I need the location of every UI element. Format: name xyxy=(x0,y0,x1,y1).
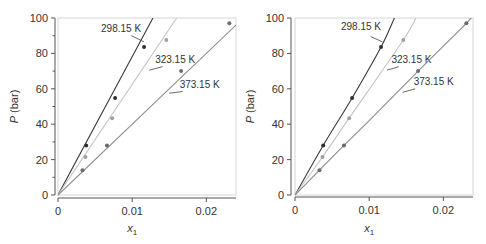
data-point-32315K xyxy=(164,38,168,42)
y-tick-label: 80 xyxy=(272,47,284,59)
data-point-32315K xyxy=(401,38,405,42)
series-label-37315K: 373.15 K xyxy=(180,79,220,90)
x-tick-label: 0 xyxy=(292,204,298,216)
y-tick-label: 0 xyxy=(278,189,284,201)
x-tick-label: 0 xyxy=(55,205,61,217)
data-point-37315K xyxy=(227,21,231,25)
data-point-37315K xyxy=(342,143,346,147)
data-point-37315K xyxy=(179,69,183,73)
series-line-29815K xyxy=(295,18,394,195)
label-leader-32315K xyxy=(149,67,162,71)
data-point-32315K xyxy=(83,155,87,159)
x-tick-label: 0.01 xyxy=(121,205,142,217)
series-line-32315K xyxy=(295,18,416,195)
data-point-29815K xyxy=(84,143,88,147)
y-tick-label: 40 xyxy=(36,118,48,130)
series-label-29815K: 298.15 K xyxy=(101,23,141,34)
y-tick-label: 40 xyxy=(272,118,284,130)
data-point-29815K xyxy=(321,143,325,147)
label-leader-29815K xyxy=(371,37,383,42)
chart-canvas: 02040608010000.010.02x1P (bar)298.15 K32… xyxy=(0,0,486,244)
x-tick-label: 0.01 xyxy=(358,204,379,216)
label-leader-37315K xyxy=(403,89,416,93)
chart-panel-right: 02040608010000.010.02x1P (bar)298.15 K32… xyxy=(244,12,473,237)
data-point-29815K xyxy=(113,96,117,100)
data-point-32315K xyxy=(110,116,114,120)
series-line-37315K xyxy=(58,25,236,195)
x-axis-label: x1 xyxy=(126,222,138,237)
series-label-37315K: 373.15 K xyxy=(414,76,454,87)
data-point-32315K xyxy=(320,155,324,159)
series-line-37315K xyxy=(295,18,471,195)
y-tick-label: 0 xyxy=(42,189,48,201)
data-point-37315K xyxy=(80,168,84,172)
y-tick-label: 60 xyxy=(36,83,48,95)
y-tick-label: 60 xyxy=(272,83,284,95)
label-leader-32315K xyxy=(387,67,399,71)
x-axis-label: x1 xyxy=(363,222,375,237)
data-point-29815K xyxy=(142,45,146,49)
data-point-37315K xyxy=(317,168,321,172)
y-axis-label: P (bar) xyxy=(244,90,256,124)
data-point-37315K xyxy=(105,143,109,147)
plot-frame xyxy=(58,18,236,195)
x-tick-label: 0.02 xyxy=(196,205,217,217)
y-tick-label: 80 xyxy=(36,47,48,59)
y-tick-label: 20 xyxy=(36,154,48,166)
data-point-37315K xyxy=(464,21,468,25)
data-point-32315K xyxy=(347,116,351,120)
data-point-37315K xyxy=(416,69,420,73)
chart-panel-left: 02040608010000.010.02x1P (bar)298.15 K32… xyxy=(8,12,236,237)
y-tick-label: 20 xyxy=(272,154,284,166)
data-point-29815K xyxy=(379,45,383,49)
series-line-32315K xyxy=(58,18,177,195)
y-tick-label: 100 xyxy=(30,12,48,24)
data-point-29815K xyxy=(350,96,354,100)
series-label-29815K: 298.15 K xyxy=(341,21,381,32)
series-line-29815K xyxy=(58,18,153,195)
y-tick-label: 100 xyxy=(266,12,284,24)
y-axis-label: P (bar) xyxy=(8,90,20,124)
series-label-32315K: 323.15 K xyxy=(155,54,195,65)
x-tick-label: 0.02 xyxy=(433,204,454,216)
label-leader-37315K xyxy=(169,91,182,93)
